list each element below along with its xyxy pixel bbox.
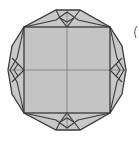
diagram-canvas [0,0,139,142]
partial-arc-mark [135,26,137,38]
